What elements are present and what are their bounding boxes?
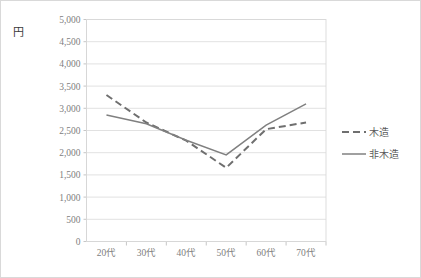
- gridlines: [84, 20, 327, 242]
- x-axis-tick-label: 60代: [256, 248, 276, 258]
- x-axis-tick-label: 30代: [137, 248, 157, 258]
- chart-legend: 木造非木造: [342, 126, 399, 160]
- y-axis-tick-label: 1,000: [59, 193, 81, 203]
- y-axis-tick-label: 2,000: [59, 148, 81, 158]
- y-axis-tick-labels: 5,0004,5004,0003,5003,0002,5002,0001,500…: [59, 15, 81, 247]
- y-axis-tick-label: 500: [66, 215, 81, 225]
- x-axis-tickmarks: [126, 242, 326, 246]
- data-series: [106, 95, 306, 168]
- y-axis-tick-label: 2,500: [59, 126, 81, 136]
- y-axis-tick-label: 4,500: [59, 37, 81, 47]
- y-axis-tick-label: 3,000: [59, 104, 81, 114]
- y-axis-tick-label: 0: [76, 237, 81, 247]
- line-chart: 5,0004,5004,0003,5003,0002,5002,0001,500…: [1, 1, 421, 278]
- x-axis-tick-label: 20代: [97, 248, 117, 258]
- series-line-木造: [106, 95, 306, 168]
- x-axis-tick-label: 50代: [216, 248, 236, 258]
- y-axis-tick-label: 1,500: [59, 170, 81, 180]
- y-axis-tick-label: 5,000: [59, 15, 81, 25]
- series-line-非木造: [106, 104, 306, 155]
- x-axis-tick-label: 70代: [296, 248, 316, 258]
- y-axis-tick-label: 4,000: [59, 59, 81, 69]
- x-axis-tick-labels: 20代30代40代50代60代70代: [97, 248, 316, 258]
- y-axis-tick-label: 3,500: [59, 82, 81, 92]
- x-axis-tick-label: 40代: [177, 248, 197, 258]
- legend-label-非木造: 非木造: [369, 148, 399, 160]
- legend-label-木造: 木造: [369, 126, 389, 138]
- chart-container: 円 5,0004,5004,0003,5003,0002,5002,0001,5…: [0, 0, 421, 278]
